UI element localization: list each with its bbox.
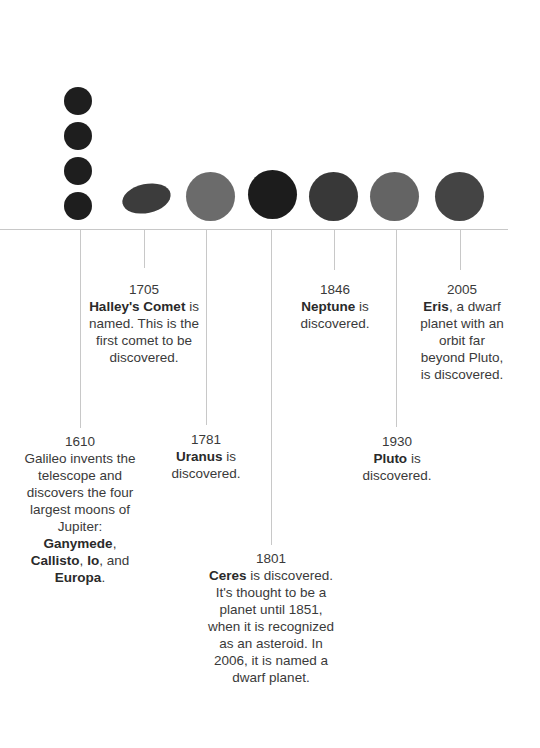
planet-circle-neptune [309,172,358,221]
moon-name-ganymede: Ganymede [44,536,113,551]
event-text: , [80,553,88,568]
event-year: 1610 [20,433,140,450]
timeline-axis [0,229,508,230]
moon-name-europa: Europa [55,570,102,585]
moon-circle-europa [64,192,92,220]
moon-name-io: Io [87,553,99,568]
comet-ellipse-halley [120,179,174,218]
event-2005: 2005 Eris, a dwarf planet with an orbit … [416,281,508,383]
tick-line-1781 [206,230,207,425]
comet-name-halley: Halley's Comet [89,299,185,314]
tick-line-1705 [144,230,145,268]
moon-name-callisto: Callisto [31,553,80,568]
tick-line-1801 [271,230,272,545]
planet-name-neptune: Neptune [301,299,355,314]
event-year: 1801 [204,550,338,567]
event-text: , [113,536,117,551]
asteroid-name-ceres: Ceres [209,568,247,583]
tick-line-2005 [460,230,461,270]
moon-circle-callisto [64,122,92,150]
event-text: is discovered. It's thought to be a plan… [208,568,334,685]
space-discovery-timeline: 1610 Galileo invents the telescope and d… [0,0,540,748]
planet-circle-uranus [186,172,235,221]
planet-circle-pluto [370,172,419,221]
event-text: Galileo invents the telescope and discov… [24,451,135,534]
planet-circle-ceres [248,170,297,219]
tick-line-1846 [334,230,335,270]
event-1705: 1705 Halley's Comet is named. This is th… [86,281,202,366]
event-year: 2005 [416,281,508,298]
event-year: 1846 [290,281,380,298]
event-text: , and [99,553,129,568]
event-1846: 1846 Neptune is discovered. [290,281,380,332]
tick-line-1930 [396,230,397,427]
moon-circle-io [64,157,92,185]
event-year: 1781 [156,431,256,448]
planet-circle-eris [435,172,484,221]
event-year: 1705 [86,281,202,298]
event-1801: 1801 Ceres is discovered. It's thought t… [204,550,338,686]
dwarf-planet-name-eris: Eris [423,299,449,314]
planet-name-uranus: Uranus [176,449,223,464]
tick-line-1610 [80,230,81,428]
planet-name-pluto: Pluto [373,451,407,466]
event-1781: 1781 Uranus is discovered. [156,431,256,482]
moon-circle-ganymede [64,87,92,115]
event-1930: 1930 Pluto is discovered. [352,433,442,484]
event-text: . [101,570,105,585]
event-1610: 1610 Galileo invents the telescope and d… [20,433,140,586]
event-year: 1930 [352,433,442,450]
